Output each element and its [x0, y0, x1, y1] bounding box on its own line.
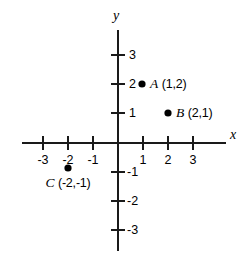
coordinate-plane-figure: y x -3 -2 -1 1 2 3 3 2 1 -1 -2 -3 A (1,2… [0, 0, 251, 263]
point-coords-a: (1,2) [162, 77, 187, 91]
x-tick-label-neg2: -2 [62, 154, 73, 167]
point-name-b: B [176, 105, 184, 120]
coordinate-plane-svg [0, 0, 251, 263]
point-label-c: C (-2,-1) [45, 176, 90, 190]
y-tick-label-neg3: -3 [127, 224, 138, 237]
x-tick-label-pos3: 3 [190, 154, 197, 167]
x-axis-label: x [230, 128, 236, 142]
x-tick-label-neg3: -3 [37, 154, 48, 167]
point-name-a: A [150, 76, 158, 91]
point-name-c: C [45, 175, 54, 190]
point-label-b: B (2,1) [176, 106, 212, 120]
point-coords-c: (-2,-1) [58, 176, 91, 190]
x-tick-label-pos2: 2 [165, 154, 172, 167]
y-tick-label-neg1: -1 [127, 166, 138, 179]
y-tick-label-pos2: 2 [129, 78, 136, 91]
y-axis-label: y [113, 9, 119, 23]
x-tick-label-pos1: 1 [140, 154, 147, 167]
y-tick-label-pos3: 3 [129, 49, 136, 62]
x-tick-label-neg1: -1 [87, 154, 98, 167]
point-marker-a [138, 80, 145, 87]
point-label-a: A (1,2) [150, 77, 186, 91]
point-coords-b: (2,1) [188, 106, 213, 120]
point-marker-b [164, 109, 171, 116]
y-tick-label-neg2: -2 [127, 195, 138, 208]
y-tick-label-pos1: 1 [129, 107, 136, 120]
